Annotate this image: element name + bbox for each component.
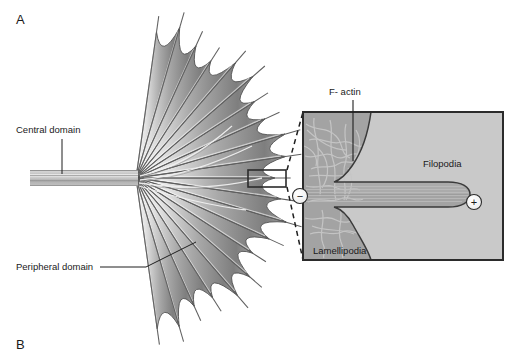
inset-panel: − + F- actin Filopodia Lamellipodia bbox=[293, 86, 504, 260]
minus-end-symbol: − bbox=[297, 190, 303, 202]
plus-end-symbol: + bbox=[471, 196, 477, 208]
figure-canvas: A B bbox=[0, 0, 514, 351]
panel-letter-b: B bbox=[16, 337, 25, 351]
filopodia-label: Filopodia bbox=[423, 158, 462, 169]
lamellipodia-label: Lamellipodia bbox=[313, 245, 367, 256]
f-actin-label: F- actin bbox=[329, 86, 361, 97]
minus-end-marker: − bbox=[293, 189, 308, 204]
plus-end-marker: + bbox=[467, 195, 482, 210]
panel-letter-a: A bbox=[16, 12, 25, 27]
central-domain-bundle bbox=[30, 170, 138, 186]
central-domain-label: Central domain bbox=[16, 124, 80, 135]
peripheral-domain-label: Peripheral domain bbox=[16, 261, 93, 272]
